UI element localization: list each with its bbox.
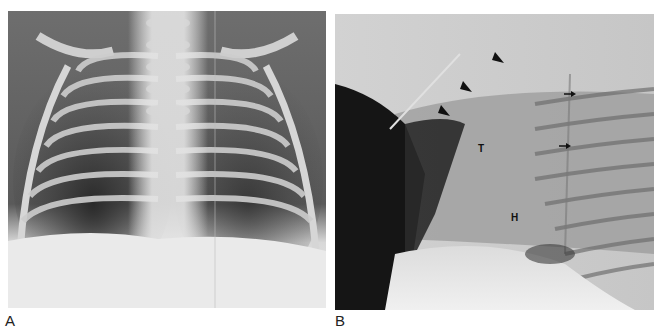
panel-label-b: B xyxy=(335,312,345,329)
frontal-chest-xray-image xyxy=(8,11,326,308)
arrowhead-marker-2 xyxy=(459,80,473,94)
radiograph-panel-b: T H xyxy=(335,14,654,310)
panel-label-a: A xyxy=(5,312,15,329)
arrowhead-marker-3 xyxy=(437,104,451,118)
annotation-letter-h: H xyxy=(511,212,518,223)
small-arrow-marker-1 xyxy=(564,91,576,97)
arrowhead-marker-1 xyxy=(491,51,505,65)
radiograph-panel-a xyxy=(8,11,326,308)
annotation-letter-t: T xyxy=(478,143,484,154)
small-arrow-marker-2 xyxy=(559,143,571,149)
